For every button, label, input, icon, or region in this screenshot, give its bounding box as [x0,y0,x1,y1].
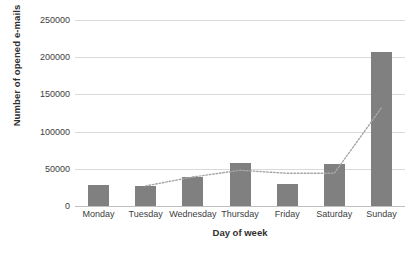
y-axis-tick-label: 250000 [16,15,70,25]
trendline [75,20,405,206]
y-axis-tick-label: 100000 [16,127,70,137]
x-axis-tick-label: Monday [83,209,115,219]
x-axis-tick-labels: MondayTuesdayWednesdayThursdayFridaySatu… [75,209,405,225]
y-axis-tick-label: 200000 [16,52,70,62]
bar-chart: Number of opened e-mails 050000100000150… [0,0,413,257]
x-axis-tick-label: Sunday [366,209,397,219]
x-axis-tick-label: Wednesday [169,209,216,219]
trendline-series [75,20,405,206]
x-axis-tick-label: Thursday [221,209,259,219]
x-axis-tick-label: Friday [275,209,300,219]
plot-area [75,20,405,206]
y-axis-tick-labels: 050000100000150000200000250000 [12,0,70,257]
x-axis-title: Day of week [75,227,405,238]
x-axis-tick-label: Saturday [316,209,352,219]
x-axis-tick-label: Tuesday [129,209,163,219]
y-axis-tick-label: 50000 [16,164,70,174]
gridline [75,206,405,207]
y-axis-tick-label: 0 [16,201,70,211]
y-axis-tick-label: 150000 [16,89,70,99]
